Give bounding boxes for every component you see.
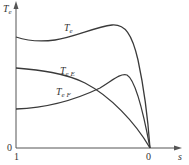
label-te: Te (64, 22, 73, 35)
y-axis-arrow-icon (14, 1, 19, 9)
x-axis-label: s (178, 151, 182, 162)
label-te-e: Te E (60, 65, 75, 78)
curve-te-e (16, 68, 150, 148)
label-te-f: Te F (56, 86, 71, 99)
origin-label: 0 (7, 142, 12, 153)
x-tick-right: 0 (146, 151, 151, 162)
torque-slip-diagram: Te s 0 1 0 Te Te E Te F (0, 0, 189, 165)
curve-te-f (16, 75, 150, 148)
x-axis-arrow-icon (174, 146, 182, 151)
y-axis-label: Te (3, 3, 12, 16)
curve-te (16, 25, 150, 148)
x-tick-left: 1 (14, 151, 19, 162)
